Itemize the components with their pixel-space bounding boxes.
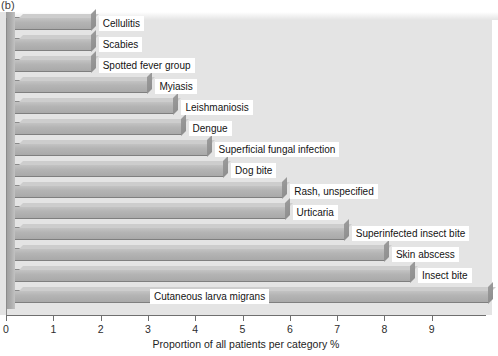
bar-myiasis xyxy=(15,80,147,93)
plot-area: CellulitisScabiesSpotted fever groupMyia… xyxy=(0,12,492,315)
x-axis-title: Proportion of all patients per category … xyxy=(0,338,492,350)
bar-value-label: Dog bite xyxy=(231,163,276,178)
panel-label: (b) xyxy=(1,0,15,11)
bar-value-label: Rash, unspecified xyxy=(290,184,378,199)
bar-skin-abscess xyxy=(15,248,384,261)
bar-top-face xyxy=(19,182,290,186)
bar-rash-unspecified xyxy=(15,185,282,198)
bar-top-face xyxy=(19,35,99,39)
bar-end-cap xyxy=(91,30,96,52)
bar-end-cap xyxy=(207,135,212,157)
bar-top-face xyxy=(19,266,418,270)
bar-insect-bite xyxy=(15,269,410,282)
bar-row xyxy=(0,34,492,55)
x-tick-mark xyxy=(148,315,149,321)
bar-top-face xyxy=(19,140,215,144)
bar-value-label: Skin abscess xyxy=(392,247,459,262)
bar-top-face xyxy=(19,161,231,165)
x-tick-label: 7 xyxy=(334,323,340,335)
bar-value-label: Scabies xyxy=(99,37,143,52)
x-tick-label: 0 xyxy=(3,323,9,335)
bar-end-cap xyxy=(282,177,287,199)
bar-superinfected-insect-bite xyxy=(15,227,344,240)
bar-top-face xyxy=(19,56,99,60)
x-tick-label: 8 xyxy=(381,323,387,335)
x-tick-mark xyxy=(337,315,338,321)
bar-value-label: Superinfected insect bite xyxy=(352,226,470,241)
bar-dengue xyxy=(15,122,181,135)
bar-urticaria xyxy=(15,206,285,219)
bar-cellulitis xyxy=(15,17,91,30)
bar-top-face xyxy=(19,77,155,81)
x-tick-label: 4 xyxy=(192,323,198,335)
bar-top-face xyxy=(19,224,352,228)
bar-value-label: Spotted fever group xyxy=(99,58,195,73)
x-tick-mark xyxy=(101,315,102,321)
bar-value-label: Superficial fungal infection xyxy=(215,142,340,157)
bar-end-cap xyxy=(223,156,228,178)
bar-value-label: Cellulitis xyxy=(99,16,144,31)
bar-value-label: Myiasis xyxy=(155,79,196,94)
bar-end-cap xyxy=(147,72,152,94)
bar-top-face xyxy=(19,119,189,123)
bar-value-label: Dengue xyxy=(189,121,232,136)
bar-value-label: Cutaneous larva migrans xyxy=(150,289,269,304)
bar-dog-bite xyxy=(15,164,223,177)
x-tick-mark xyxy=(384,315,385,321)
bar-scabies xyxy=(15,38,91,51)
bar-superficial-fungal-infection xyxy=(15,143,207,156)
bar-end-cap xyxy=(384,240,389,262)
bar-row xyxy=(0,118,492,139)
x-tick-mark xyxy=(6,315,7,321)
bar-value-label: Insect bite xyxy=(418,268,472,283)
x-tick-label: 6 xyxy=(287,323,293,335)
bar-row xyxy=(0,55,492,76)
bar-spotted-fever-group xyxy=(15,59,91,72)
bar-end-cap xyxy=(285,198,290,220)
x-tick-mark xyxy=(195,315,196,321)
bar-end-cap xyxy=(410,261,415,283)
bar-row xyxy=(0,13,492,34)
x-tick-label: 5 xyxy=(240,323,246,335)
bar-end-cap xyxy=(344,219,349,241)
x-tick-label: 1 xyxy=(50,323,56,335)
x-tick-label: 9 xyxy=(429,323,435,335)
x-tick-mark xyxy=(53,315,54,321)
bar-end-cap xyxy=(488,282,493,304)
x-tick-mark xyxy=(243,315,244,321)
bar-end-cap xyxy=(173,93,178,115)
bar-row xyxy=(0,76,492,97)
bar-leishmaniosis xyxy=(15,101,173,114)
x-tick-label: 2 xyxy=(98,323,104,335)
bar-top-face xyxy=(19,14,99,18)
bar-value-label: Urticaria xyxy=(293,205,338,220)
x-axis-line xyxy=(6,315,486,316)
bar-top-face xyxy=(19,203,293,207)
bar-end-cap xyxy=(181,114,186,136)
bar-row xyxy=(0,181,492,202)
bar-value-label: Leishmaniosis xyxy=(181,100,252,115)
bar-end-cap xyxy=(91,9,96,31)
bar-top-face xyxy=(19,98,181,102)
bar-row xyxy=(0,202,492,223)
x-tick-mark xyxy=(290,315,291,321)
bar-end-cap xyxy=(91,51,96,73)
x-tick-mark xyxy=(432,315,433,321)
x-tick-label: 3 xyxy=(145,323,151,335)
bar-top-face xyxy=(19,245,392,249)
